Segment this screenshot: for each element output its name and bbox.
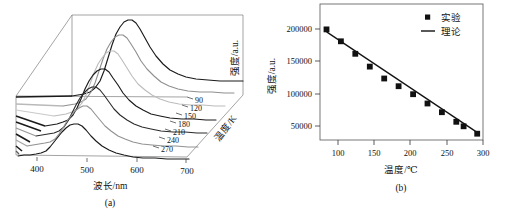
data-point: [381, 76, 387, 82]
x-axis-ticks-b: [338, 140, 483, 145]
data-point: [453, 119, 459, 125]
x-tick-label-200: 200: [404, 148, 417, 158]
x-axis-title-b: 温度/℃: [384, 164, 418, 175]
panel-b-svg: 50000 100000 150000 200000 100 150 200 2…: [253, 0, 505, 213]
data-point: [367, 64, 373, 70]
data-point: [439, 109, 445, 115]
x-tick-label-400: 400: [30, 164, 44, 174]
depth-tick-label-270: 270: [161, 145, 173, 154]
legend-b: 实验 理论: [421, 12, 461, 37]
panel-a-waterfall-chart: 400 500 600 700 波长/nm 强度/a.u. 90 120 150…: [0, 0, 253, 213]
x-tick-label-300: 300: [477, 148, 490, 158]
figure-container: 400 500 600 700 波长/nm 强度/a.u. 90 120 150…: [0, 0, 505, 213]
x-tick-label-500: 500: [80, 165, 94, 175]
data-point: [338, 38, 344, 44]
spectrum-curve-120: [63, 35, 234, 106]
y-axis-title-a: 强度/a.u.: [229, 40, 240, 76]
data-point: [352, 51, 358, 57]
y-tick-label-50000: 50000: [291, 121, 312, 131]
spectra-curves: [18, 20, 243, 159]
legend-label-theory: 理论: [441, 26, 461, 37]
data-point: [474, 131, 480, 137]
x-axis-title-a: 波长/nm: [93, 180, 128, 191]
depth-tick-label-240: 240: [167, 136, 179, 145]
spectrum-curve-90: [72, 20, 243, 96]
x-tick-label-250: 250: [441, 148, 454, 158]
waterfall-baselines: [16, 96, 72, 154]
x-tick-label-100: 100: [332, 148, 345, 158]
x-tick-label-600: 600: [130, 165, 144, 175]
data-point: [410, 91, 416, 97]
y-tick-label-100000: 100000: [287, 89, 313, 99]
axes-box-3d: [16, 15, 243, 157]
panel-a-svg: 400 500 600 700 波长/nm 强度/a.u. 90 120 150…: [0, 0, 253, 213]
x-tick-label-700: 700: [180, 166, 194, 176]
legend-label-experiment: 实验: [441, 12, 461, 23]
panel-b-scatter-chart: 50000 100000 150000 200000 100 150 200 2…: [253, 0, 505, 213]
theory-fit-line: [327, 32, 478, 132]
x-tick-label-150: 150: [368, 148, 381, 158]
panel-label-a: (a): [105, 198, 116, 209]
data-point: [324, 27, 330, 33]
depth-axis-title-a: 温度/K: [212, 113, 239, 143]
y-tick-label-150000: 150000: [287, 56, 313, 66]
y-tick-label-200000: 200000: [287, 24, 313, 34]
x-axis-ticks-a: [37, 157, 186, 163]
legend-marker-square-icon: [425, 15, 430, 20]
panel-label-b: (b): [395, 183, 406, 194]
y-axis-ticks-b: [315, 29, 320, 126]
data-point: [461, 123, 467, 129]
y-axis-title-b: 强度/a.u.: [266, 58, 277, 94]
data-point: [425, 101, 431, 107]
data-point: [396, 83, 402, 89]
